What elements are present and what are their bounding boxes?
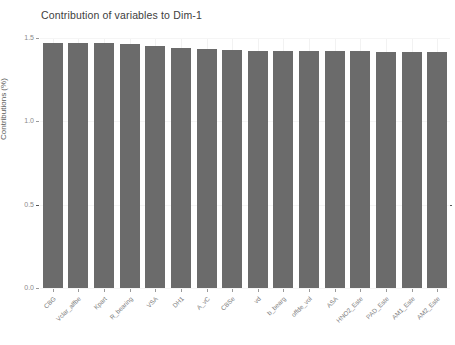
bar[interactable] (197, 49, 217, 288)
x-axis-tick-mark (360, 289, 361, 292)
x-axis-tick-mark (258, 289, 259, 292)
x-axis-tick-mark (386, 289, 387, 292)
gridline-horizontal (40, 288, 450, 289)
x-axis-tick-mark (437, 289, 438, 292)
x-axis-tick-mark (309, 289, 310, 292)
y-axis-tick-mark (36, 288, 39, 289)
y-axis-tick-label: 1.0 (24, 117, 34, 124)
plot-area (40, 38, 450, 288)
y-axis-title: Contributions (%) (0, 78, 8, 140)
y-axis-tick-label: 0.5 (24, 201, 34, 208)
chart-title: Contribution of variables to Dim-1 (41, 9, 202, 21)
bar[interactable] (273, 51, 293, 288)
x-axis-tick-mark (335, 289, 336, 292)
x-axis-tick-mark (181, 289, 182, 292)
x-axis-tick-mark (232, 289, 233, 292)
x-axis-tick-mark (130, 289, 131, 292)
y-axis-tick-mark (36, 38, 39, 39)
x-axis-tick-label: CBG (0, 295, 57, 345)
bar[interactable] (171, 48, 191, 288)
bar[interactable] (350, 51, 370, 288)
y-axis-tick-label: 0.0 (24, 284, 34, 291)
x-axis-tick-mark (53, 289, 54, 292)
bar[interactable] (299, 51, 319, 288)
y-axis-tick-mark (36, 121, 39, 122)
x-axis-tick-mark (283, 289, 284, 292)
bar[interactable] (145, 46, 165, 288)
bar[interactable] (68, 43, 88, 288)
x-axis-tick-mark (104, 289, 105, 292)
bar[interactable] (248, 51, 268, 288)
bar[interactable] (94, 43, 114, 288)
bar[interactable] (325, 51, 345, 288)
bar[interactable] (402, 52, 422, 288)
gridline-horizontal (40, 38, 450, 39)
x-axis-tick-mark (412, 289, 413, 292)
x-axis-tick-mark (78, 289, 79, 292)
bar[interactable] (427, 52, 447, 288)
y-axis-tick-label: 1.5 (24, 34, 34, 41)
x-axis-tick-mark (155, 289, 156, 292)
x-axis-tick-mark (207, 289, 208, 292)
bar[interactable] (43, 43, 63, 288)
chart-figure: Contribution of variables to Dim-1 Contr… (0, 0, 455, 345)
bar[interactable] (120, 44, 140, 288)
bar[interactable] (222, 50, 242, 288)
bar[interactable] (376, 52, 396, 289)
